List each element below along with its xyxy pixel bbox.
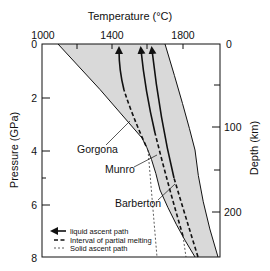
legend: liquid ascent path Interval of partial m…: [54, 227, 152, 253]
y2-tick-100: 100: [224, 121, 242, 133]
y-tick-2: 2: [31, 92, 37, 104]
y-axis-title: Pressure (GPa): [8, 112, 20, 188]
x-axis-title: Temperature (°C): [88, 10, 172, 22]
y-tick-4: 4: [31, 145, 37, 157]
y-tick-0: 0: [31, 38, 37, 50]
y2-tick-0: 0: [226, 38, 232, 50]
annotation-gorgona: Gorgona: [77, 143, 118, 155]
y2-axis-ticks: [212, 85, 220, 212]
y2-axis-title: Depth (km): [248, 121, 260, 175]
y-tick-6: 6: [31, 199, 37, 211]
y-axis-ticks: [42, 98, 50, 205]
annotation-munro: Munro: [105, 163, 135, 175]
x-tick-1800: 1800: [171, 29, 195, 41]
x-tick-1400: 1400: [100, 29, 124, 41]
pressure-temperature-chart: Temperature (°C) 1000 1400 1800 0 2 4 6 …: [0, 0, 270, 271]
legend-solid-label: Solid ascent path: [70, 244, 128, 253]
y2-tick-200: 200: [224, 206, 242, 218]
y-tick-8: 8: [31, 252, 37, 264]
annotation-barberton: Barberton: [115, 197, 161, 209]
legend-liquid-label: liquid ascent path: [70, 227, 128, 236]
